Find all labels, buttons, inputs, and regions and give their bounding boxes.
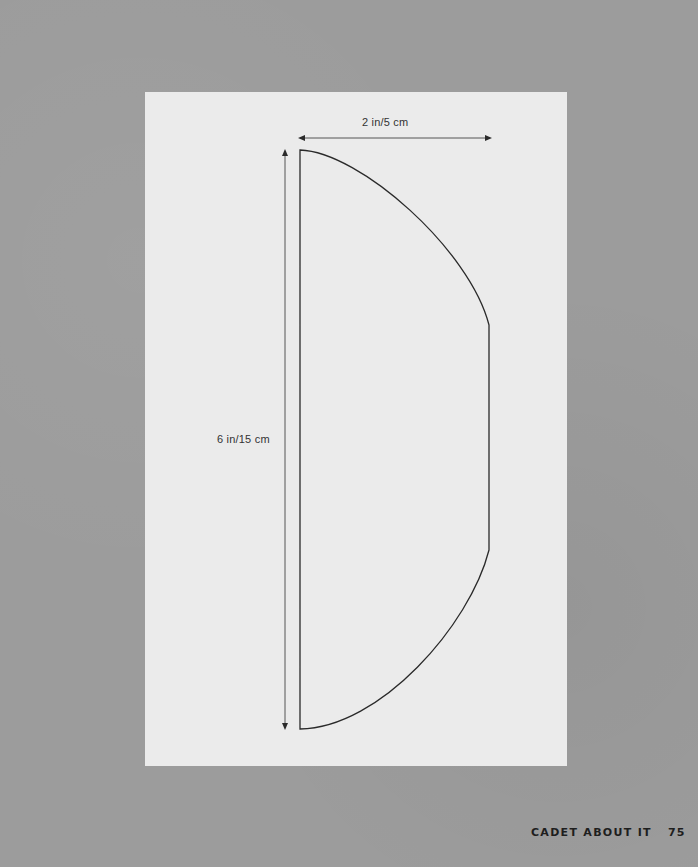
page-number: 75 (668, 826, 686, 839)
running-title: CADET ABOUT IT (531, 826, 652, 839)
pattern-piece-outline (300, 150, 489, 729)
width-dimension-label: 2 in/5 cm (362, 116, 408, 128)
height-dimension-label: 6 in/15 cm (217, 433, 270, 445)
page-footer: CADET ABOUT IT75 (531, 826, 686, 839)
pattern-piece-diagram (0, 0, 698, 867)
